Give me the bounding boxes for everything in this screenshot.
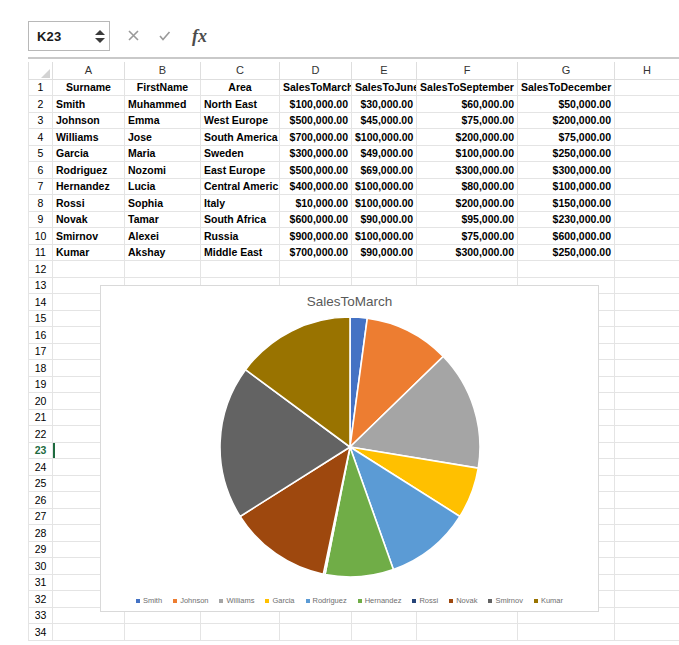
cell-F10[interactable]: $75,000.00	[417, 228, 518, 245]
cell-D4[interactable]: $700,000.00	[280, 129, 352, 146]
cell-D3[interactable]: $500,000.00	[280, 112, 352, 129]
cell-C9[interactable]: South Africa	[201, 211, 280, 228]
column-header-c[interactable]: C	[201, 62, 280, 79]
name-box-spinner[interactable]	[94, 25, 105, 47]
cell-G1[interactable]: SalesToDecember	[518, 79, 615, 96]
spinner-down-icon[interactable]	[95, 38, 105, 43]
cell-E10[interactable]: $100,000.00	[352, 228, 417, 245]
cell-H3[interactable]	[615, 112, 679, 129]
cell-H10[interactable]	[615, 228, 679, 245]
cell-H19[interactable]	[615, 376, 679, 393]
cell-C11[interactable]: Middle East	[201, 244, 280, 261]
cell-A4[interactable]: Williams	[53, 129, 125, 146]
cell-H30[interactable]	[615, 558, 679, 575]
cell-G5[interactable]: $250,000.00	[518, 145, 615, 162]
cell-H21[interactable]	[615, 409, 679, 426]
cell-H29[interactable]	[615, 541, 679, 558]
name-box[interactable]: K23	[28, 21, 110, 51]
row-header-6[interactable]: 6	[29, 162, 53, 179]
cell-B2[interactable]: Muhammed	[125, 96, 201, 113]
cell-E2[interactable]: $30,000.00	[352, 96, 417, 113]
cell-F11[interactable]: $300,000.00	[417, 244, 518, 261]
cell-H31[interactable]	[615, 574, 679, 591]
cell-C7[interactable]: Central Americ	[201, 178, 280, 195]
cell-G6[interactable]: $300,000.00	[518, 162, 615, 179]
cell-B12[interactable]	[125, 261, 201, 278]
cell-F7[interactable]: $80,000.00	[417, 178, 518, 195]
cell-F2[interactable]: $60,000.00	[417, 96, 518, 113]
column-header-g[interactable]: G	[518, 62, 615, 79]
row-header-12[interactable]: 12	[29, 261, 53, 278]
formula-input[interactable]	[223, 25, 679, 47]
cell-H17[interactable]	[615, 343, 679, 360]
cell-B8[interactable]: Sophia	[125, 195, 201, 212]
row-header-29[interactable]: 29	[29, 541, 53, 558]
row-header-28[interactable]: 28	[29, 525, 53, 542]
cell-F1[interactable]: SalesToSeptember	[417, 79, 518, 96]
cell-E7[interactable]: $100,000.00	[352, 178, 417, 195]
cell-H33[interactable]	[615, 607, 679, 624]
cell-H11[interactable]	[615, 244, 679, 261]
cell-F4[interactable]: $200,000.00	[417, 129, 518, 146]
cell-F12[interactable]	[417, 261, 518, 278]
row-header-22[interactable]: 22	[29, 426, 53, 443]
cell-A12[interactable]	[53, 261, 125, 278]
legend-item-garcia[interactable]: Garcia	[265, 596, 294, 605]
cell-F6[interactable]: $300,000.00	[417, 162, 518, 179]
cell-E11[interactable]: $90,000.00	[352, 244, 417, 261]
legend-item-rodriguez[interactable]: Rodriguez	[306, 596, 347, 605]
cell-D5[interactable]: $300,000.00	[280, 145, 352, 162]
legend-item-johnson[interactable]: Johnson	[173, 596, 208, 605]
cell-A7[interactable]: Hernandez	[53, 178, 125, 195]
cell-B5[interactable]: Maria	[125, 145, 201, 162]
cell-G10[interactable]: $600,000.00	[518, 228, 615, 245]
legend-item-hernandez[interactable]: Hernandez	[358, 596, 402, 605]
cell-D1[interactable]: SalesToMarch	[280, 79, 352, 96]
legend-item-smith[interactable]: Smith	[136, 596, 162, 605]
cell-H13[interactable]	[615, 277, 679, 294]
cell-E12[interactable]	[352, 261, 417, 278]
cell-A8[interactable]: Rossi	[53, 195, 125, 212]
cell-D8[interactable]: $10,000.00	[280, 195, 352, 212]
cell-H9[interactable]	[615, 211, 679, 228]
insert-function-icon[interactable]: fx	[192, 26, 207, 47]
cell-H32[interactable]	[615, 591, 679, 608]
check-icon[interactable]	[157, 28, 172, 44]
row-header-34[interactable]: 34	[29, 624, 53, 641]
cell-H27[interactable]	[615, 508, 679, 525]
cell-E34[interactable]	[352, 624, 417, 641]
cell-B9[interactable]: Tamar	[125, 211, 201, 228]
column-header-f[interactable]: F	[417, 62, 518, 79]
cell-C1[interactable]: Area	[201, 79, 280, 96]
row-header-31[interactable]: 31	[29, 574, 53, 591]
row-header-9[interactable]: 9	[29, 211, 53, 228]
row-header-25[interactable]: 25	[29, 475, 53, 492]
cell-H12[interactable]	[615, 261, 679, 278]
cell-C6[interactable]: East Europe	[201, 162, 280, 179]
cell-F34[interactable]	[417, 624, 518, 641]
cell-A34[interactable]	[53, 624, 125, 641]
cell-E1[interactable]: SalesToJune	[352, 79, 417, 96]
column-header-d[interactable]: D	[280, 62, 352, 79]
cell-D34[interactable]	[280, 624, 352, 641]
cell-B3[interactable]: Emma	[125, 112, 201, 129]
row-header-14[interactable]: 14	[29, 294, 53, 311]
cell-G3[interactable]: $200,000.00	[518, 112, 615, 129]
cell-G12[interactable]	[518, 261, 615, 278]
cell-E3[interactable]: $45,000.00	[352, 112, 417, 129]
column-header-b[interactable]: B	[125, 62, 201, 79]
row-header-10[interactable]: 10	[29, 228, 53, 245]
row-header-23[interactable]: 23	[29, 442, 53, 459]
pie-chart-plot[interactable]	[219, 316, 481, 578]
cell-C3[interactable]: West Europe	[201, 112, 280, 129]
cell-G9[interactable]: $230,000.00	[518, 211, 615, 228]
cell-B1[interactable]: FirstName	[125, 79, 201, 96]
row-header-17[interactable]: 17	[29, 343, 53, 360]
row-header-19[interactable]: 19	[29, 376, 53, 393]
cell-E6[interactable]: $69,000.00	[352, 162, 417, 179]
cell-D7[interactable]: $400,000.00	[280, 178, 352, 195]
cell-C10[interactable]: Russia	[201, 228, 280, 245]
row-header-21[interactable]: 21	[29, 409, 53, 426]
cell-E8[interactable]: $100,000.00	[352, 195, 417, 212]
cell-D12[interactable]	[280, 261, 352, 278]
